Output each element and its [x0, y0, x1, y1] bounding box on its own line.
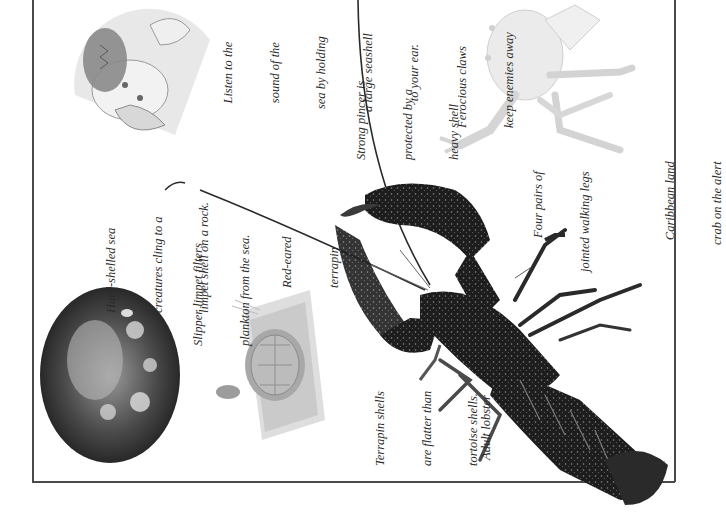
- caption-line: Ferocious claws: [455, 32, 471, 128]
- caption-line: Caribbean land: [663, 161, 679, 245]
- limpet-shell-illustration: [40, 287, 180, 463]
- caption-line: are flatter than: [420, 391, 436, 466]
- caption-line: Hard-shelled sea: [104, 202, 120, 313]
- caption-line: keep enemies away: [502, 32, 518, 128]
- caption-line: Terrapin shells: [373, 391, 389, 466]
- caption-red-eared-terrapin: Red-eared terrapin: [249, 236, 358, 288]
- caption-line: Four pairs of: [531, 171, 547, 272]
- caption-adult-lobster: Adult lobster: [448, 395, 510, 460]
- caption-line: terrapin: [327, 236, 343, 288]
- caption-line: crab on the alert: [710, 161, 726, 245]
- caption-line: Adult lobster: [479, 395, 495, 460]
- caption-line: protected by a: [401, 81, 417, 160]
- caption-line: Strong pincer is: [354, 81, 370, 160]
- caption-walking-legs: Four pairs of jointed walking legs: [500, 171, 609, 272]
- caption-line: Red-eared: [280, 236, 296, 288]
- caption-line: jointed walking legs: [578, 171, 594, 272]
- caption-line: sound of the: [268, 33, 284, 112]
- caption-line: Slipper limpet filters: [191, 235, 207, 346]
- caption-land-crab: Caribbean land crab on the alert: [632, 161, 726, 245]
- caption-line: Listen to the: [221, 33, 237, 112]
- caption-ferocious-claws: Ferocious claws keep enemies away: [424, 32, 533, 128]
